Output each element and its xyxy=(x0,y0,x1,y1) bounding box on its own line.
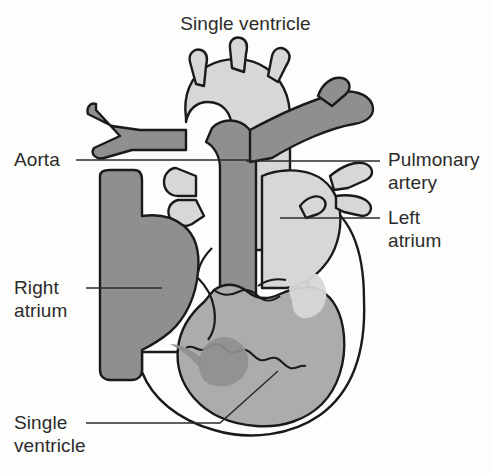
label-aorta: Aorta xyxy=(14,148,60,171)
figure-canvas: Single ventricle Aorta Pulmonary artery … xyxy=(0,0,491,474)
carotid-branch xyxy=(230,37,247,72)
superior-vena-cava-group xyxy=(87,104,186,159)
pulmonary-vein-upper xyxy=(330,163,372,190)
label-right-atrium: Right atrium xyxy=(14,276,67,322)
label-single-ventricle: Single ventricle xyxy=(14,411,86,457)
page-title: Single ventricle xyxy=(0,12,491,35)
label-pulmonary-artery: Pulmonary artery xyxy=(388,148,480,194)
subclavian-branch xyxy=(268,48,289,82)
label-left-atrium: Left atrium xyxy=(388,206,441,252)
aorta-lower-stub xyxy=(164,168,196,196)
